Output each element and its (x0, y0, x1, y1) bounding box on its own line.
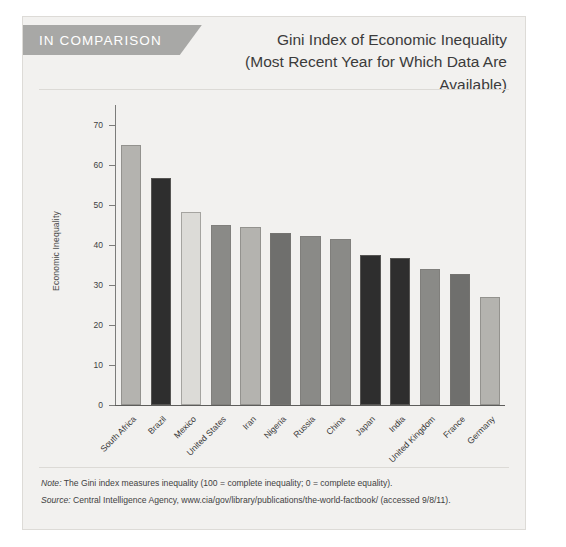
y-tick-label-30: 30 (69, 280, 103, 290)
bar-russia (300, 236, 320, 405)
source-text: Central Intelligence Agency, www.cia/gov… (71, 495, 451, 505)
bar-slot (475, 105, 505, 405)
bar-nigeria (270, 233, 290, 405)
note-text: The Gini index measures inequality (100 … (62, 478, 393, 488)
bar-france (450, 274, 470, 405)
header-divider (39, 89, 509, 90)
bar-slot (415, 105, 445, 405)
y-tick-label-20: 20 (69, 320, 103, 330)
plot-area: Economic Inequality 010203040506070 Sout… (39, 101, 509, 441)
x-tick-label-brazil: Brazil (146, 414, 168, 436)
note-label: Note: (41, 478, 62, 488)
y-axis-title-text: Economic Inequality (51, 211, 61, 291)
bar-japan (360, 255, 380, 405)
bar-iran (240, 227, 260, 405)
y-tick-40 (109, 245, 115, 246)
y-tick-10 (109, 365, 115, 366)
bar-slot (296, 105, 326, 405)
figure-notes: Note: The Gini index measures inequality… (41, 475, 507, 509)
bar-germany (480, 297, 500, 405)
bar-slot (146, 105, 176, 405)
y-tick-label-50: 50 (69, 200, 103, 210)
chart-title-line1: Gini Index of Economic Inequality (277, 31, 507, 48)
bar-group (116, 105, 505, 405)
bar-slot (236, 105, 266, 405)
y-tick-0 (109, 405, 115, 406)
bar-slot (355, 105, 385, 405)
chart-title: Gini Index of Economic Inequality (Most … (177, 29, 507, 96)
bar-slot (176, 105, 206, 405)
x-tick-label-india: India (387, 414, 407, 434)
x-tick-label-iran: Iran (240, 414, 258, 432)
y-tick-60 (109, 165, 115, 166)
x-axis-line (115, 405, 505, 406)
bar-united-kingdom (420, 269, 440, 405)
bar-slot (116, 105, 146, 405)
x-tick-label-france: France (441, 414, 467, 440)
bar-slot (266, 105, 296, 405)
bar-brazil (151, 178, 171, 405)
chart-figure: IN COMPARISON Gini Index of Economic Ine… (0, 0, 566, 547)
y-tick-label-10: 10 (69, 360, 103, 370)
y-tick-label-60: 60 (69, 160, 103, 170)
x-tick-label-south-africa: South Africa (98, 414, 138, 454)
bar-china (330, 239, 350, 405)
bar-india (390, 258, 410, 405)
y-tick-label-40: 40 (69, 240, 103, 250)
footer-divider (39, 467, 509, 468)
source-line: Source: Central Intelligence Agency, www… (41, 492, 507, 509)
x-tick-label-china: China (325, 414, 348, 437)
y-tick-70 (109, 125, 115, 126)
y-tick-label-0: 0 (69, 400, 103, 410)
y-tick-20 (109, 325, 115, 326)
y-tick-30 (109, 285, 115, 286)
in-comparison-banner: IN COMPARISON (23, 25, 202, 55)
bar-slot (445, 105, 475, 405)
y-tick-label-70: 70 (69, 120, 103, 130)
x-tick-label-japan: Japan (354, 414, 378, 438)
axes: 010203040506070 South AfricaBrazilMexico… (69, 105, 505, 405)
x-tick-label-nigeria: Nigeria (261, 414, 287, 440)
bar-slot (325, 105, 355, 405)
bar-mexico (181, 212, 201, 405)
banner-label: IN COMPARISON (39, 33, 162, 48)
bar-slot (206, 105, 236, 405)
bar-south-africa (121, 145, 141, 405)
x-tick-label-mexico: Mexico (172, 414, 198, 440)
bar-slot (385, 105, 415, 405)
bar-united-states (211, 225, 231, 405)
y-tick-50 (109, 205, 115, 206)
figure-panel: IN COMPARISON Gini Index of Economic Ine… (22, 16, 526, 530)
source-label: Source: (41, 495, 71, 505)
note-line: Note: The Gini index measures inequality… (41, 475, 507, 492)
y-axis-title: Economic Inequality (49, 101, 63, 401)
x-tick-label-russia: Russia (292, 414, 318, 440)
